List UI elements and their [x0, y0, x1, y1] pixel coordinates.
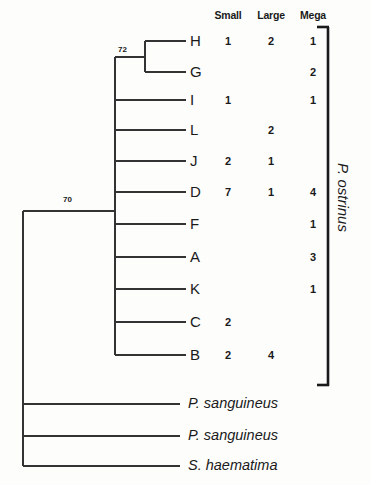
- cell-H-small: 1: [206, 36, 250, 47]
- cell-I-mega: 1: [291, 95, 335, 106]
- tip-label-G: G: [190, 64, 212, 79]
- cell-A-mega: 3: [291, 252, 335, 263]
- cell-D-mega: 4: [291, 187, 335, 198]
- cell-L-large: 2: [249, 125, 293, 136]
- cell-B-large: 4: [249, 350, 293, 361]
- tip-label-sanguineus-2: P. sanguineus: [188, 428, 278, 443]
- cell-C-small: 2: [206, 317, 250, 328]
- clade-label-ostrinus: P. ostrinus: [336, 163, 351, 232]
- column-header-large: Large: [249, 9, 293, 21]
- cell-K-mega: 1: [291, 284, 335, 295]
- cell-D-small: 7: [206, 187, 250, 198]
- column-header-small: Small: [206, 9, 250, 21]
- tip-label-F: F: [190, 216, 212, 231]
- cell-H-large: 2: [249, 36, 293, 47]
- cell-F-mega: 1: [291, 219, 335, 230]
- tip-label-K: K: [190, 281, 212, 296]
- tip-label-A: A: [190, 249, 212, 264]
- cell-B-small: 2: [206, 350, 250, 361]
- tip-label-L: L: [190, 122, 212, 137]
- cell-J-small: 2: [206, 156, 250, 167]
- bootstrap-value-hg: 72: [118, 46, 127, 54]
- column-header-mega: Mega: [291, 9, 335, 21]
- cell-G-mega: 2: [291, 67, 335, 78]
- clade-bracket-ostrinus: [317, 27, 329, 386]
- tip-label-haematima: S. haematima: [188, 458, 277, 473]
- tip-label-sanguineus-1: P. sanguineus: [188, 396, 278, 411]
- cell-J-large: 1: [249, 156, 293, 167]
- cell-H-mega: 1: [291, 36, 335, 47]
- cell-D-large: 1: [249, 187, 293, 198]
- bootstrap-value-ostrinus: 70: [63, 196, 72, 204]
- phylogenetic-tree-figure: Small Large Mega 72 70 H G I L J D F A K…: [0, 0, 370, 485]
- cell-I-small: 1: [206, 95, 250, 106]
